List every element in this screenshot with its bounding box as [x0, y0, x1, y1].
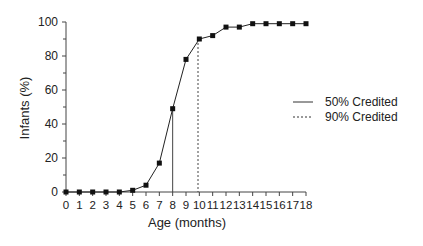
y-tick-label: 60: [45, 83, 59, 97]
data-point-marker: [90, 190, 95, 195]
data-point-marker: [304, 21, 309, 26]
data-point-marker: [237, 25, 242, 30]
data-point-marker: [290, 21, 295, 26]
x-tick-label: 18: [300, 199, 313, 211]
x-tick-label: 17: [286, 199, 299, 211]
line-chart: 0204060801000123456789101112131415161718…: [0, 0, 423, 246]
x-tick-label: 2: [89, 199, 95, 211]
x-tick-label: 1: [76, 199, 82, 211]
data-point-marker: [250, 21, 255, 26]
series-line: [66, 24, 306, 192]
legend-label-50: 50% Credited: [325, 95, 398, 109]
data-point-marker: [210, 33, 215, 38]
data-point-marker: [77, 190, 82, 195]
x-tick-label: 3: [103, 199, 109, 211]
y-tick-label: 100: [38, 15, 58, 29]
x-tick-label: 14: [246, 199, 259, 211]
data-point-marker: [64, 190, 69, 195]
x-tick-label: 7: [156, 199, 162, 211]
x-tick-label: 10: [193, 199, 206, 211]
x-tick-label: 12: [220, 199, 233, 211]
legend-label-90: 90% Credited: [325, 110, 398, 124]
x-tick-label: 4: [116, 199, 123, 211]
x-tick-label: 13: [233, 199, 246, 211]
data-point-marker: [130, 188, 135, 193]
data-point-marker: [184, 57, 189, 62]
data-point-marker: [117, 190, 122, 195]
data-point-marker: [264, 21, 269, 26]
x-tick-label: 16: [273, 199, 286, 211]
x-tick-label: 0: [63, 199, 69, 211]
legend: 50% Credited 90% Credited: [293, 95, 398, 124]
y-tick-label: 40: [45, 117, 59, 131]
data-point-marker: [277, 21, 282, 26]
x-tick-label: 6: [143, 199, 149, 211]
x-tick-label: 11: [207, 199, 219, 211]
data-point-marker: [224, 25, 229, 30]
data-point-marker: [144, 183, 149, 188]
x-tick-label: 9: [183, 199, 189, 211]
x-tick-label: 8: [169, 199, 175, 211]
data-series: [64, 21, 309, 194]
y-tick-label: 0: [51, 185, 58, 199]
data-point-marker: [157, 161, 162, 166]
axes: 0204060801000123456789101112131415161718: [38, 15, 312, 211]
x-tick-label: 15: [260, 199, 273, 211]
x-tick-label: 5: [129, 199, 135, 211]
data-point-marker: [170, 106, 175, 111]
y-axis-label: Infants (%): [17, 77, 32, 140]
y-tick-label: 20: [45, 151, 59, 165]
data-point-marker: [104, 190, 109, 195]
data-point-marker: [197, 37, 202, 42]
y-tick-label: 80: [45, 49, 59, 63]
x-axis-label: Age (months): [148, 215, 226, 230]
